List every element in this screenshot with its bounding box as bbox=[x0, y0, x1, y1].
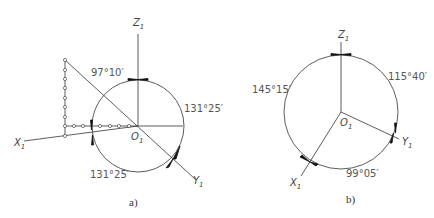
z-axis-label-b: Z1 bbox=[337, 29, 349, 43]
angle-label-a-zy: 131°25′ bbox=[184, 103, 224, 114]
axonometric-diagram: 97°10′ 131°25′ 131°25′ Z1 X1 Y1 O1 a) 14… bbox=[0, 0, 434, 218]
x-axis-a bbox=[24, 126, 138, 141]
figure-a bbox=[24, 34, 195, 179]
angle-label-b-xy: 99°05′ bbox=[346, 168, 379, 179]
y-axis-label-a: Y1 bbox=[193, 175, 204, 189]
angle-label-a-xz: 97°10′ bbox=[91, 67, 124, 78]
arrow-marks-a bbox=[91, 79, 181, 169]
caption-a: a) bbox=[129, 196, 138, 209]
angle-label-b-zy: 115°40′ bbox=[388, 71, 428, 82]
angle-label-a-xy: 131°25′ bbox=[90, 169, 130, 180]
angle-label-b-xz: 145°15′ bbox=[252, 84, 292, 95]
x-axis-label-b: X1 bbox=[289, 177, 301, 191]
caption-b: b) bbox=[346, 193, 356, 206]
origin-label-b: O1 bbox=[340, 117, 352, 131]
labels-b: 145°15′ 115°40′ 99°05′ Z1 Y1 X1 O1 b) bbox=[252, 29, 428, 206]
x-axis-b bbox=[301, 112, 341, 176]
x-axis-label-a: X1 bbox=[13, 137, 25, 151]
origin-label-a: O1 bbox=[131, 131, 143, 145]
y-axis-line-a bbox=[65, 60, 195, 179]
figure-b bbox=[284, 42, 399, 176]
labels-a: 97°10′ 131°25′ 131°25′ Z1 X1 Y1 O1 a) bbox=[13, 17, 224, 209]
z-axis-label-a: Z1 bbox=[132, 17, 144, 31]
y-axis-label-b: Y1 bbox=[402, 136, 413, 150]
arrow-marks-b bbox=[300, 54, 397, 167]
